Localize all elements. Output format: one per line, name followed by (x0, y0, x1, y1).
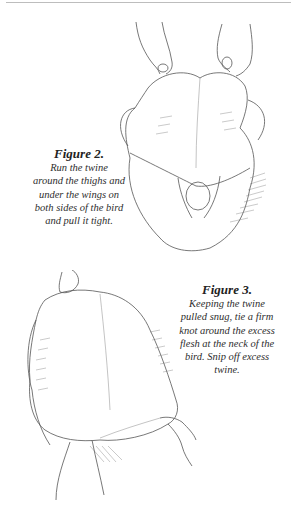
figure-3-caption-line: flesh at the neck of the (158, 337, 296, 350)
figure-2-caption-line: around the thighs and (18, 174, 140, 187)
figure-2-caption-line: and pull it tight. (18, 214, 140, 227)
top-rule-divider (6, 2, 291, 3)
figure-2-caption-line: under the wings on (18, 188, 140, 201)
figure-2-title: Figure 2. (18, 146, 140, 161)
figure-2-caption-line: both sides of the bird (18, 201, 140, 214)
figure-3-caption-line: twine. (158, 363, 296, 376)
figure-3-caption-line: Keeping the twine (158, 297, 296, 310)
figure-3-caption-line: knot around the excess (158, 324, 296, 337)
figure-2-caption-line: Run the twine (18, 161, 140, 174)
figure-3-caption: Figure 3. Keeping the twine pulled snug,… (158, 282, 296, 377)
figure-3-caption-line: pulled snug, tie a firm (158, 310, 296, 323)
figure-3-title: Figure 3. (158, 282, 296, 297)
figure-3-caption-line: bird. Snip off excess (158, 350, 296, 363)
figure-2-caption: Figure 2. Run the twine around the thigh… (18, 146, 140, 227)
